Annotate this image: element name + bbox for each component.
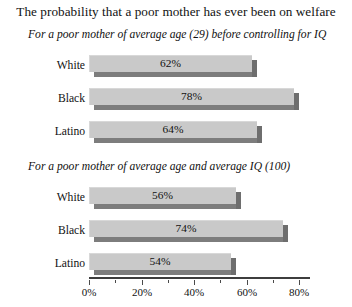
category-label: Latino bbox=[55, 253, 85, 275]
chart-canvas: The probability that a poor mother has e… bbox=[0, 0, 352, 307]
category-label: White bbox=[57, 187, 85, 209]
bar-value-label: 56% bbox=[89, 187, 236, 204]
chart-title: The probability that a poor mother has e… bbox=[0, 4, 352, 20]
bar-row: Latino 64% bbox=[89, 121, 257, 143]
axis-tick-label: 0% bbox=[82, 286, 97, 299]
bar-side-shadow bbox=[294, 93, 299, 110]
bar-value-label: 78% bbox=[89, 88, 294, 105]
bar: 74% bbox=[89, 220, 283, 242]
axis-tick-minor bbox=[115, 280, 116, 283]
axis-tick-label: 20% bbox=[132, 286, 152, 299]
bar-side-shadow bbox=[257, 126, 262, 143]
bar-side-shadow bbox=[236, 192, 241, 209]
bar-bottom-shadow bbox=[94, 237, 288, 242]
bar-value-label: 74% bbox=[89, 220, 283, 237]
bar-bottom-shadow bbox=[94, 138, 262, 143]
category-label: Black bbox=[58, 88, 85, 110]
bar-row: White 62% bbox=[89, 55, 252, 77]
panel-1-subtitle: For a poor mother of average age (29) be… bbox=[28, 28, 326, 42]
axis-tick-label: 60% bbox=[237, 286, 257, 299]
axis-tick-major bbox=[299, 280, 300, 285]
bar-row: Black 78% bbox=[89, 88, 294, 110]
bar: 62% bbox=[89, 55, 252, 77]
axis-tick-minor bbox=[273, 280, 274, 283]
bar-row: Black 74% bbox=[89, 220, 283, 242]
bar: 56% bbox=[89, 187, 236, 209]
bar: 78% bbox=[89, 88, 294, 110]
axis-tick-label: 80% bbox=[289, 286, 309, 299]
bar: 54% bbox=[89, 253, 231, 275]
bar-side-shadow bbox=[231, 258, 236, 275]
category-label: White bbox=[57, 55, 85, 77]
axis-tick-label: 40% bbox=[184, 286, 204, 299]
bar-value-label: 54% bbox=[89, 253, 231, 270]
bar-side-shadow bbox=[283, 225, 288, 242]
bar-value-label: 64% bbox=[89, 121, 257, 138]
bar-bottom-shadow bbox=[94, 105, 299, 110]
bar-side-shadow bbox=[252, 60, 257, 77]
axis-tick-major bbox=[89, 280, 90, 285]
bar-bottom-shadow bbox=[94, 72, 257, 77]
panel-2-subtitle: For a poor mother of average age and ave… bbox=[28, 160, 290, 174]
bar-row: White 56% bbox=[89, 187, 236, 209]
bar-value-label: 62% bbox=[89, 55, 252, 72]
category-label: Latino bbox=[55, 121, 85, 143]
bar-bottom-shadow bbox=[94, 204, 241, 209]
x-axis-line bbox=[89, 277, 310, 279]
axis-tick-minor bbox=[220, 280, 221, 283]
axis-tick-major bbox=[247, 280, 248, 285]
axis-tick-minor bbox=[168, 280, 169, 283]
bar-bottom-shadow bbox=[94, 270, 236, 275]
bar-row: Latino 54% bbox=[89, 253, 231, 275]
axis-tick-major bbox=[194, 280, 195, 285]
bar: 64% bbox=[89, 121, 257, 143]
axis-tick-major bbox=[142, 280, 143, 285]
category-label: Black bbox=[58, 220, 85, 242]
